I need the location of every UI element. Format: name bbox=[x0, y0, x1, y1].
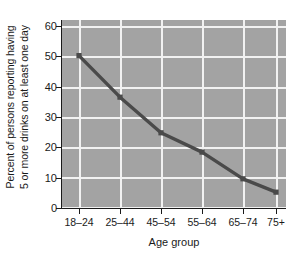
y-axis-line bbox=[61, 20, 62, 209]
plot-area bbox=[62, 20, 286, 208]
x-tick-mark-18-24 bbox=[79, 209, 80, 214]
y-axis-tick-labels: 0 10 20 30 40 50 60 bbox=[33, 0, 57, 214]
x-tick-label-55-64: 55–64 bbox=[187, 216, 216, 228]
y-tick-label-10: 10 bbox=[35, 173, 57, 184]
y-axis-title-line-2: 5 or more drinks on at least one day bbox=[17, 25, 31, 189]
x-tick-label-18-24: 18–24 bbox=[64, 216, 93, 228]
x-tick-mark-75-plus bbox=[276, 209, 277, 214]
y-tick-label-40: 40 bbox=[35, 82, 57, 93]
data-point-marker bbox=[158, 130, 163, 135]
data-point-marker bbox=[117, 95, 122, 100]
y-tick-label-30: 30 bbox=[35, 112, 57, 123]
y-tick-label-20: 20 bbox=[35, 142, 57, 153]
y-tick-label-60: 60 bbox=[35, 21, 57, 32]
x-tick-label-65-74: 65–74 bbox=[228, 216, 257, 228]
data-point-marker bbox=[240, 176, 245, 181]
y-tick-label-0: 0 bbox=[35, 203, 57, 214]
x-tick-mark-25-44 bbox=[120, 209, 121, 214]
x-tick-label-25-44: 25–44 bbox=[105, 216, 134, 228]
line-chart: Percent of persons reporting having 5 or… bbox=[0, 0, 292, 266]
x-tick-mark-55-64 bbox=[202, 209, 203, 214]
data-series-line bbox=[62, 20, 286, 208]
x-tick-label-45-54: 45–54 bbox=[146, 216, 175, 228]
x-tick-mark-45-54 bbox=[161, 209, 162, 214]
x-tick-label-75-plus: 75+ bbox=[267, 216, 285, 228]
y-axis-title-line-1: Percent of persons reporting having bbox=[4, 25, 18, 189]
y-axis-title: Percent of persons reporting having 5 or… bbox=[0, 0, 34, 214]
x-axis-line bbox=[61, 208, 286, 209]
data-point-marker bbox=[76, 53, 81, 58]
x-axis-title: Age group bbox=[62, 236, 286, 249]
y-tick-label-50: 50 bbox=[35, 51, 57, 62]
data-point-marker bbox=[199, 149, 204, 154]
data-point-marker bbox=[273, 190, 278, 195]
x-tick-mark-65-74 bbox=[243, 209, 244, 214]
